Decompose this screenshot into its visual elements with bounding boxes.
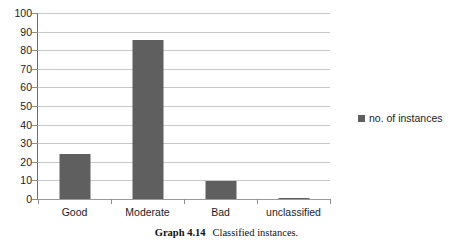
clipped-chart-title bbox=[120, 0, 340, 5]
y-tick-label: 10 bbox=[0, 175, 32, 186]
y-tick-mark bbox=[32, 180, 38, 181]
y-tick-mark bbox=[32, 199, 38, 200]
y-tick-mark bbox=[32, 32, 38, 33]
bar-slot bbox=[38, 13, 111, 199]
y-tick-mark bbox=[32, 143, 38, 144]
chart-legend: no. of instances bbox=[358, 112, 443, 124]
x-axis-tick-labels: GoodModerateBadunclassified bbox=[38, 206, 330, 222]
bar-series-no-of-instances bbox=[38, 13, 330, 199]
x-tick-label: Bad bbox=[184, 206, 257, 219]
x-tick-label: Moderate bbox=[111, 206, 184, 219]
bar-slot bbox=[184, 13, 257, 199]
bar-slot bbox=[111, 13, 184, 199]
bar[interactable] bbox=[132, 40, 163, 199]
legend-label-no-of-instances: no. of instances bbox=[369, 112, 443, 124]
y-tick-mark bbox=[32, 125, 38, 126]
x-tick-mark bbox=[184, 199, 185, 204]
bar-chart: 1009080706050403020100 GoodModerateBadun… bbox=[0, 8, 340, 208]
caption-number: Graph 4.14 bbox=[155, 227, 206, 238]
figure-caption: Graph 4.14Classified instances. bbox=[0, 226, 453, 239]
y-tick-label: 60 bbox=[0, 82, 32, 93]
x-tick-mark bbox=[38, 199, 39, 204]
y-tick-label: 30 bbox=[0, 138, 32, 149]
x-tick-mark bbox=[257, 199, 258, 204]
y-tick-label: 90 bbox=[0, 26, 32, 37]
x-tick-label: Good bbox=[38, 206, 111, 219]
bar[interactable] bbox=[59, 154, 90, 199]
caption-text: Classified instances. bbox=[213, 227, 299, 238]
bar-slot bbox=[257, 13, 330, 199]
y-tick-mark bbox=[32, 162, 38, 163]
figure-classified-instances: 1009080706050403020100 GoodModerateBadun… bbox=[0, 0, 453, 247]
y-tick-label: 50 bbox=[0, 101, 32, 112]
y-tick-mark bbox=[32, 50, 38, 51]
y-tick-label: 20 bbox=[0, 157, 32, 168]
x-tick-mark bbox=[330, 199, 331, 204]
y-tick-mark bbox=[32, 106, 38, 107]
x-tick-label: unclassified bbox=[257, 206, 330, 219]
y-tick-mark bbox=[32, 87, 38, 88]
y-tick-label: 100 bbox=[0, 8, 32, 19]
x-axis-tick-marks bbox=[38, 199, 330, 204]
y-tick-label: 70 bbox=[0, 64, 32, 75]
y-tick-label: 40 bbox=[0, 119, 32, 130]
y-tick-label: 0 bbox=[0, 194, 32, 205]
y-tick-label: 80 bbox=[0, 45, 32, 56]
legend-swatch-icon bbox=[358, 115, 365, 122]
y-axis-tick-labels: 1009080706050403020100 bbox=[0, 8, 32, 194]
bar[interactable] bbox=[205, 181, 236, 199]
plot-area bbox=[38, 13, 330, 199]
x-tick-mark bbox=[111, 199, 112, 204]
y-tick-mark bbox=[32, 69, 38, 70]
y-tick-mark bbox=[32, 13, 38, 14]
